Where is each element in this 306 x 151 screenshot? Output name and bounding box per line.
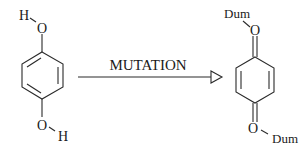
reactant-molecule: O H O H [19, 8, 68, 144]
reactant-top-oh-bond [30, 18, 36, 22]
product-top-dum-label: Dum [224, 6, 250, 21]
product-molecule: O Dum O Dum [224, 6, 298, 146]
reactant-top-oxygen: O [37, 21, 47, 36]
product-bottom-oxygen: O [248, 121, 258, 136]
reactant-benzene-ring [22, 52, 63, 99]
reaction-diagram: O H O H MUTATION O Dum O Dum [0, 0, 306, 151]
reaction-arrow: MUTATION [78, 57, 222, 83]
reactant-bottom-oh-bond [49, 127, 55, 131]
product-bottom-dum-label: Dum [272, 131, 298, 146]
arrow-head-icon [211, 71, 222, 83]
product-top-dum-bond [243, 21, 250, 27]
arrow-label: MUTATION [109, 57, 186, 73]
product-top-oxygen: O [250, 23, 260, 38]
product-bottom-dum-bond [261, 130, 268, 134]
reactant-bottom-hydrogen: H [58, 129, 68, 144]
reactant-top-hydrogen: H [19, 8, 29, 23]
product-quinone-ring [236, 57, 274, 103]
reactant-bottom-oxygen: O [37, 118, 47, 133]
